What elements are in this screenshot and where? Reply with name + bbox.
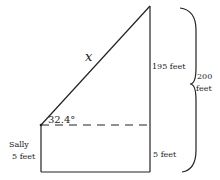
- hypotenuse-label: x: [85, 49, 93, 64]
- person-name-label: Sally: [9, 140, 29, 149]
- total-height-label-number: 200: [197, 72, 212, 81]
- person-height-label: 5 feet: [12, 152, 36, 161]
- right-triangle-diagram: x 32.4° 195 feet 5 feet Sally 5 feet 200…: [0, 0, 220, 180]
- angle-label: 32.4°: [48, 114, 75, 125]
- hypotenuse-line: [41, 6, 150, 125]
- upper-height-label: 195 feet: [152, 62, 186, 71]
- curly-brace: [180, 8, 196, 172]
- vertex-dot: [40, 124, 43, 127]
- lower-height-label: 5 feet: [153, 150, 177, 159]
- total-height-label-unit: feet: [196, 84, 212, 93]
